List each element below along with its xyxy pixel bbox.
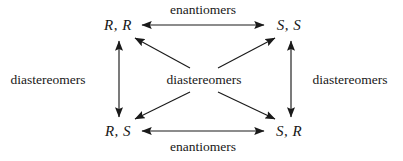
arrow-diagonal-to-sr [218, 92, 275, 119]
edge-label-center-diastereomers: diastereomers [163, 71, 246, 89]
stereochemistry-diagram: R, R S, S R, S S, R enantiomers enantiom… [0, 0, 403, 161]
arrow-diagonal-to-rr [135, 38, 190, 68]
arrow-diagonal-to-rs [135, 92, 190, 119]
arrow-diagonal-to-ss [218, 38, 275, 68]
